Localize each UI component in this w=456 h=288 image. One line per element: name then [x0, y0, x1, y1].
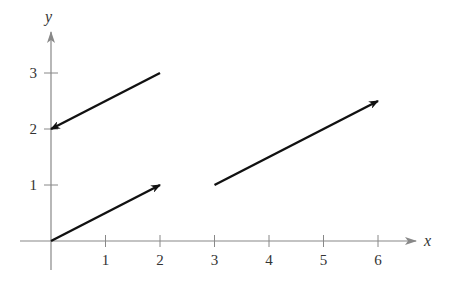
y-tick-label: 3: [30, 65, 38, 81]
x-tick-label: 2: [156, 252, 164, 268]
ticks: 123456123: [30, 65, 383, 268]
vectors: [51, 73, 378, 241]
x-axis-label: x: [423, 232, 431, 249]
x-tick-label: 5: [320, 252, 328, 268]
vector-b: [51, 185, 160, 241]
y-tick-label: 1: [30, 177, 38, 193]
x-tick-label: 6: [374, 252, 382, 268]
y-axis-label: y: [43, 8, 53, 26]
x-tick-label: 3: [211, 252, 219, 268]
x-tick-label: 4: [265, 252, 273, 268]
vector-a: [51, 73, 160, 129]
vector-plot: 123456123 x y: [0, 0, 456, 288]
y-tick-label: 2: [30, 121, 38, 137]
vector-c: [215, 101, 379, 185]
x-tick-label: 1: [102, 252, 110, 268]
axes: [20, 32, 416, 270]
